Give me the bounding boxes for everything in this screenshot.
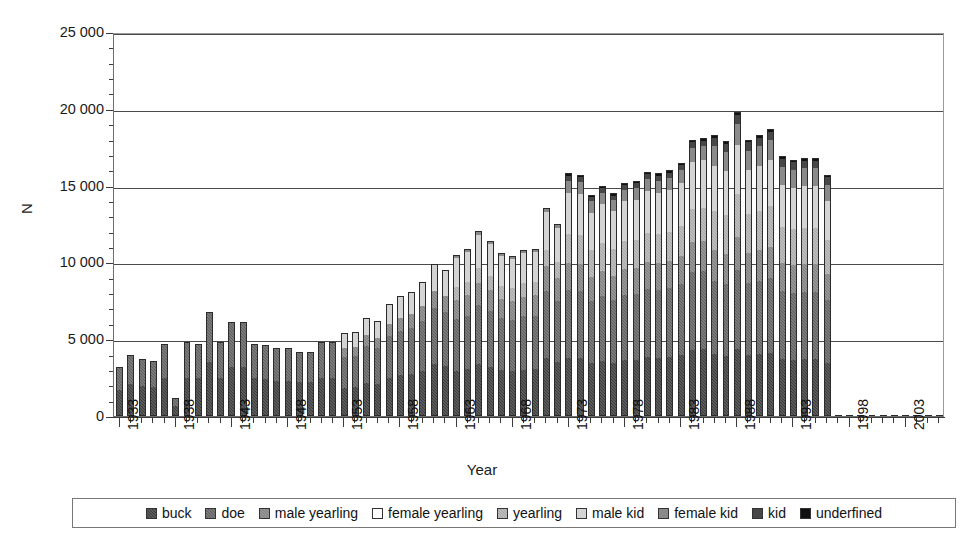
y-tick-label: 20 000 bbox=[6, 102, 104, 117]
bar-segment-yearling bbox=[565, 234, 572, 263]
bar-segment-male-yearling bbox=[408, 314, 415, 328]
legend-swatch-female-kid-icon bbox=[658, 508, 669, 519]
bar-segment-male-yearling bbox=[812, 264, 819, 292]
bar bbox=[621, 183, 628, 416]
bar bbox=[341, 333, 348, 416]
x-tick-major bbox=[905, 418, 906, 427]
bar-segment-male-yearling bbox=[487, 290, 494, 311]
bar-segment-buck bbox=[666, 357, 673, 416]
bar-segment-buck bbox=[262, 379, 269, 416]
legend-item-female-yearling[interactable]: female yearling bbox=[365, 505, 490, 521]
bar-segment-yearling bbox=[543, 250, 550, 267]
x-tick-minor bbox=[703, 418, 704, 423]
bar-segment-kid bbox=[745, 142, 752, 150]
x-tick-minor bbox=[826, 418, 827, 423]
bar-segment-doe bbox=[644, 289, 651, 357]
bar bbox=[734, 112, 741, 416]
bar-segment-yearling bbox=[577, 235, 584, 264]
bar-segment-underfined bbox=[565, 173, 572, 175]
bar bbox=[487, 241, 494, 416]
bar-segment-male-kid bbox=[487, 244, 494, 276]
legend-item-kid[interactable]: kid bbox=[745, 505, 793, 521]
bar-segment-male-yearling bbox=[655, 263, 662, 290]
legend-item-male-kid[interactable]: male kid bbox=[569, 505, 651, 521]
bar-segment-female-kid bbox=[487, 241, 494, 245]
bar-segment-male-kid bbox=[408, 292, 415, 314]
bar-segment-doe bbox=[756, 281, 763, 354]
x-tick-minor bbox=[781, 418, 782, 423]
bar-segment-doe bbox=[610, 300, 617, 362]
bar-segment-doe bbox=[206, 312, 213, 362]
bar-segment-female-kid bbox=[621, 190, 628, 202]
legend-item-yearling[interactable]: yearling bbox=[490, 505, 569, 521]
bar-segment-female-kid bbox=[610, 200, 617, 211]
bar-segment-male-kid bbox=[689, 162, 696, 209]
x-tick-minor bbox=[500, 418, 501, 423]
bar-segment-buck bbox=[565, 358, 572, 416]
bar bbox=[824, 175, 831, 416]
bar-segment-male-yearling bbox=[745, 253, 752, 283]
bar-segment-doe bbox=[285, 348, 292, 380]
bar-segment-male-yearling bbox=[756, 250, 763, 281]
bar bbox=[374, 321, 381, 416]
bar-segment-underfined bbox=[790, 160, 797, 163]
bar-segment-male-yearling bbox=[341, 348, 348, 357]
bar-segment-male-yearling bbox=[621, 269, 628, 295]
bar bbox=[217, 342, 224, 416]
bar-segment-doe bbox=[318, 342, 325, 377]
bar-segment-doe bbox=[273, 348, 280, 380]
bar-segment-yearling bbox=[689, 209, 696, 242]
bar-segment-female-kid bbox=[666, 178, 673, 190]
bar bbox=[318, 342, 325, 416]
legend-item-male-yearling[interactable]: male yearling bbox=[252, 505, 365, 521]
legend-item-buck[interactable]: buck bbox=[139, 505, 199, 521]
bar-segment-male-yearling bbox=[644, 262, 651, 289]
bar-segment-male-yearling bbox=[565, 263, 572, 290]
bar-segment-male-yearling bbox=[419, 306, 426, 321]
bar bbox=[464, 249, 471, 416]
bar-segment-male-yearling bbox=[577, 264, 584, 291]
bar-segment-female-kid bbox=[633, 188, 640, 200]
legend-item-female-kid[interactable]: female kid bbox=[651, 505, 745, 521]
bar-segment-doe bbox=[655, 290, 662, 358]
bar-segment-male-kid bbox=[419, 282, 426, 306]
bar bbox=[273, 348, 280, 416]
bar-segment-yearling bbox=[767, 206, 774, 246]
x-tick-minor bbox=[534, 418, 535, 423]
bar-segment-kid bbox=[577, 177, 584, 182]
bar-segment-buck bbox=[386, 378, 393, 416]
bar-segment-female-kid bbox=[565, 181, 572, 193]
legend-swatch-male-yearling-icon bbox=[259, 508, 270, 519]
legend-item-doe[interactable]: doe bbox=[198, 505, 251, 521]
legend-label: female yearling bbox=[388, 505, 483, 521]
bar-segment-female-kid bbox=[475, 231, 482, 235]
bar-segment-buck bbox=[285, 381, 292, 416]
bar-segment-doe bbox=[251, 344, 258, 379]
bar bbox=[408, 292, 415, 416]
bar-segment-male-yearling bbox=[363, 335, 370, 346]
x-tick-label: 1988 bbox=[742, 399, 758, 430]
bar bbox=[161, 344, 168, 416]
bar-segment-doe bbox=[228, 322, 235, 367]
bar-segment-doe bbox=[127, 355, 134, 384]
bar-segment-buck bbox=[824, 363, 831, 416]
bar-segment-female-kid bbox=[734, 124, 741, 145]
bar-segment-male-yearling bbox=[711, 250, 718, 281]
bar bbox=[711, 135, 718, 416]
x-tick-minor bbox=[601, 418, 602, 423]
legend-label: male kid bbox=[592, 505, 644, 521]
x-tick-minor bbox=[815, 418, 816, 423]
bar-segment-male-kid bbox=[565, 193, 572, 234]
legend-item-underfined[interactable]: underfined bbox=[793, 505, 889, 521]
bar bbox=[262, 345, 269, 416]
bar bbox=[700, 138, 707, 416]
bar-segment-male-yearling bbox=[509, 301, 516, 320]
bar-segment-male-yearling bbox=[352, 347, 359, 356]
bar-segment-male-kid bbox=[532, 252, 539, 282]
bar-segment-underfined bbox=[711, 135, 718, 138]
bar-segment-kid bbox=[824, 177, 831, 184]
bar-segment-doe bbox=[184, 342, 191, 377]
bar-segment-kid bbox=[801, 161, 808, 169]
bar-segment-male-yearling bbox=[543, 266, 550, 291]
x-axis-title: Year bbox=[0, 461, 964, 478]
